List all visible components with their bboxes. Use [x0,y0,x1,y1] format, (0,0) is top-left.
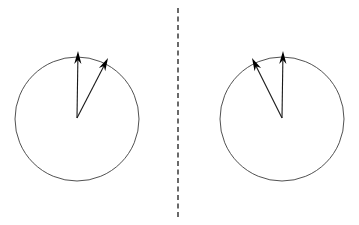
diagram-root [0,0,359,225]
diagram-background [0,0,359,225]
diagram-canvas [0,0,359,225]
